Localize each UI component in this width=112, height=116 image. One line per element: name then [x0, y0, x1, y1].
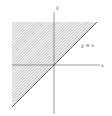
line-label: y = x — [80, 42, 94, 49]
y-axis-label: y — [55, 4, 59, 11]
x-axis-label: x — [101, 62, 104, 68]
region-diagram: y x y = x — [0, 0, 112, 116]
